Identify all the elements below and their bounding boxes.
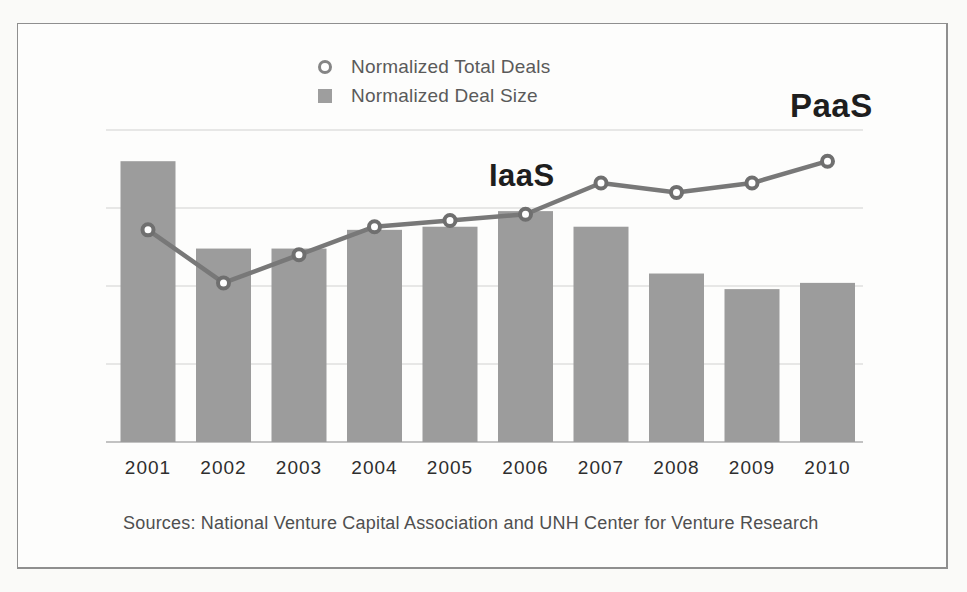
bar-2001 (121, 161, 176, 442)
year-label-2001: 2001 (125, 457, 171, 479)
line-marker-2004 (369, 221, 380, 232)
year-label-2010: 2010 (804, 457, 850, 479)
year-label-2004: 2004 (351, 457, 397, 479)
legend-label-total-deals: Normalized Total Deals (351, 56, 550, 78)
year-label-2006: 2006 (502, 457, 548, 479)
line-marker-2005 (445, 215, 456, 226)
chart-legend: Normalized Total Deals Normalized Deal S… (315, 54, 550, 109)
legend-label-deal-size: Normalized Deal Size (351, 85, 538, 107)
bar-2004 (347, 230, 402, 442)
year-label-2008: 2008 (653, 457, 699, 479)
year-label-2007: 2007 (578, 457, 624, 479)
bar-2005 (423, 227, 478, 442)
open-circle-icon (318, 60, 332, 74)
bar-2008 (649, 274, 704, 442)
annotation-paas: PaaS (790, 87, 873, 125)
filled-square-icon (318, 89, 332, 103)
scanned-chart-page: Normalized Total Deals Normalized Deal S… (0, 0, 967, 592)
bar-2010 (800, 283, 855, 442)
combo-chart-plot (106, 124, 863, 454)
annotation-iaas: IaaS (489, 158, 555, 194)
line-marker-2006 (520, 209, 531, 220)
bar-2006 (498, 211, 553, 442)
year-label-2009: 2009 (729, 457, 775, 479)
line-marker-2007 (596, 178, 607, 189)
figure-frame: Normalized Total Deals Normalized Deal S… (17, 23, 948, 569)
line-marker-2008 (671, 187, 682, 198)
line-marker-2009 (747, 178, 758, 189)
legend-item-total-deals: Normalized Total Deals (315, 54, 550, 80)
year-label-2003: 2003 (276, 457, 322, 479)
legend-item-deal-size: Normalized Deal Size (315, 83, 550, 109)
line-marker-2003 (294, 249, 305, 260)
bar-2009 (725, 289, 780, 442)
bar-2007 (574, 227, 629, 442)
line-marker-2001 (143, 224, 154, 235)
x-axis-labels: 2001200220032004200520062007200820092010 (106, 457, 863, 483)
line-marker-2002 (218, 277, 229, 288)
bar-2003 (272, 249, 327, 442)
year-label-2005: 2005 (427, 457, 473, 479)
year-label-2002: 2002 (200, 457, 246, 479)
source-note: Sources: National Venture Capital Associ… (123, 513, 819, 534)
line-marker-2010 (822, 156, 833, 167)
